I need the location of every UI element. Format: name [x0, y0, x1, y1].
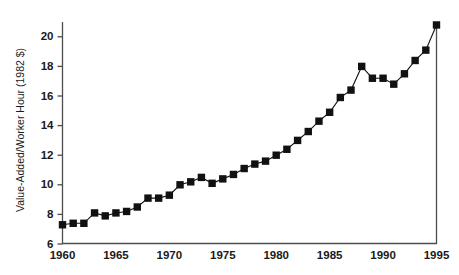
data-point-marker: [347, 86, 354, 93]
data-point-marker: [358, 63, 365, 70]
x-tick-label: 1985: [317, 249, 343, 261]
data-point-marker: [379, 75, 386, 82]
data-point-marker: [69, 220, 76, 227]
data-point-marker: [401, 70, 408, 77]
data-point-marker: [219, 175, 226, 182]
x-tick-label: 1960: [50, 249, 76, 261]
data-point-marker: [176, 181, 183, 188]
data-point-marker: [251, 160, 258, 167]
data-point-marker: [144, 194, 151, 201]
data-point-marker: [337, 94, 344, 101]
data-point-marker: [433, 21, 440, 28]
data-point-marker: [422, 46, 429, 53]
y-tick-label: 8: [47, 208, 54, 220]
chart-background: [0, 0, 459, 275]
data-point-marker: [262, 157, 269, 164]
value-added-per-worker-hour-line-chart: Value-Added/Worker Hour (1982 $) 6810121…: [0, 0, 459, 275]
data-point-marker: [273, 152, 280, 159]
y-tick-label: 6: [47, 238, 53, 250]
data-point-marker: [134, 203, 141, 210]
y-axis-title: Value-Added/Worker Hour (1982 $): [14, 48, 26, 212]
x-tick-label: 1970: [157, 249, 183, 261]
x-tick-label: 1965: [103, 249, 129, 261]
data-point-marker: [240, 165, 247, 172]
data-point-marker: [59, 221, 66, 228]
data-point-marker: [123, 208, 130, 215]
x-tick-label: 1975: [210, 249, 236, 261]
data-point-marker: [187, 178, 194, 185]
data-point-marker: [283, 146, 290, 153]
data-point-marker: [294, 137, 301, 144]
data-point-marker: [91, 209, 98, 216]
data-point-marker: [208, 180, 215, 187]
data-point-marker: [230, 171, 237, 178]
data-point-marker: [80, 220, 87, 227]
y-tick-label: 10: [41, 178, 54, 190]
chart-container: Value-Added/Worker Hour (1982 $) 6810121…: [0, 0, 459, 275]
data-point-marker: [411, 57, 418, 64]
data-point-marker: [155, 194, 162, 201]
y-tick-label: 20: [41, 30, 54, 42]
data-point-marker: [369, 75, 376, 82]
x-tick-label: 1990: [370, 249, 396, 261]
y-tick-label: 12: [41, 149, 54, 161]
data-point-marker: [166, 191, 173, 198]
y-tick-label: 14: [41, 119, 54, 131]
data-point-marker: [198, 174, 205, 181]
data-point-marker: [326, 109, 333, 116]
data-point-marker: [305, 128, 312, 135]
y-axis-title-label: Value-Added/Worker Hour (1982 $): [14, 48, 26, 212]
data-point-marker: [102, 212, 109, 219]
data-point-marker: [390, 80, 397, 87]
y-tick-label: 18: [41, 60, 54, 72]
y-tick-label: 16: [41, 90, 54, 102]
x-tick-label: 1980: [263, 249, 289, 261]
data-point-marker: [112, 209, 119, 216]
data-point-marker: [315, 117, 322, 124]
x-tick-label: 1995: [424, 249, 450, 261]
